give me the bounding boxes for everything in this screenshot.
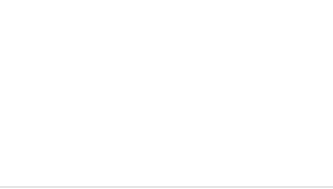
line-chart	[0, 0, 333, 188]
y-axis-title	[1, 47, 14, 189]
bottom-edge-shadow	[0, 186, 333, 188]
data-plot	[0, 0, 333, 188]
